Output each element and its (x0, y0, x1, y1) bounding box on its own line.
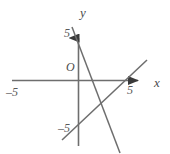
x-axis-tick-label-minus-5: –5 (6, 86, 18, 98)
x-axis-tick-label-5: 5 (127, 84, 133, 96)
y-axis-tick-label-minus-5: –5 (58, 122, 70, 134)
coordinate-plane-figure: y x O 5 –5 5 –5 (0, 0, 170, 154)
graph-canvas (0, 0, 170, 154)
x-axis-label: x (154, 76, 160, 89)
y-axis-label: y (80, 6, 86, 19)
origin-label: O (66, 61, 75, 73)
y-axis-tick-label-5: 5 (64, 27, 70, 39)
